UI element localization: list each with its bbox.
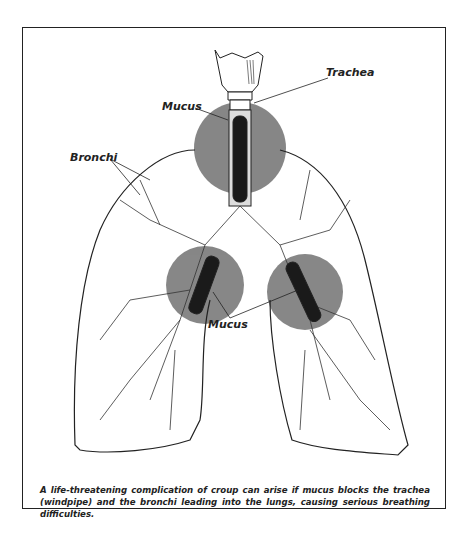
label-trachea: Trachea [326,66,374,79]
trachea [229,110,251,206]
label-bronchi: Bronchi [70,151,117,164]
label-mucus-bottom: Mucus [208,318,248,331]
label-mucus-top: Mucus [162,100,202,113]
lungs-illustration [0,0,466,537]
larynx [215,50,263,110]
figure-caption: A life-threatening complication of croup… [40,484,430,520]
